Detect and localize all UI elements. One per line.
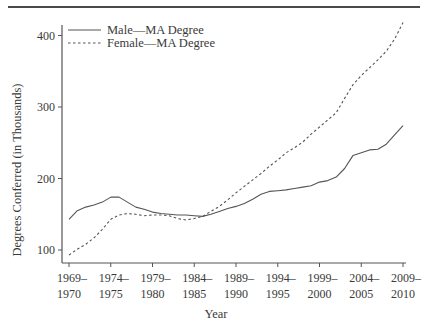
- y-tick-label: 400: [37, 29, 55, 43]
- x-tick-label: 1980: [141, 287, 165, 301]
- x-tick-label: 1999–: [308, 271, 339, 285]
- x-tick-label: 1990: [224, 287, 248, 301]
- x-tick-label: 2004–: [349, 271, 380, 285]
- line-chart: 1002003004001969–19701974–19751979–19801…: [0, 0, 429, 332]
- x-tick-label: 2009–: [391, 271, 422, 285]
- axes: 1002003004001969–19701974–19751979–19801…: [37, 25, 422, 301]
- x-tick-label: 2010: [391, 287, 415, 301]
- y-tick-label: 100: [37, 243, 55, 257]
- x-tick-label: 1975: [99, 287, 123, 301]
- x-tick-label: 1984–: [182, 271, 213, 285]
- x-tick-label: 1989–: [224, 271, 255, 285]
- legend-female-label: Female—MA Degree: [107, 36, 215, 50]
- x-tick-label: 2005: [349, 287, 373, 301]
- y-tick-label: 200: [37, 172, 55, 186]
- x-tick-label: 1979–: [141, 271, 172, 285]
- legend-male-label: Male—MA Degree: [107, 23, 204, 37]
- y-tick-label: 300: [37, 100, 55, 114]
- x-tick-label: 1985: [182, 287, 206, 301]
- x-tick-label: 1995: [266, 287, 290, 301]
- x-tick-label: 1974–: [99, 271, 130, 285]
- x-axis-title: Year: [204, 307, 228, 321]
- x-tick-label: 1994–: [266, 271, 297, 285]
- x-tick-label: 1969–: [57, 271, 88, 285]
- legend: Male—MA Degree Female—MA Degree: [68, 23, 215, 50]
- series-lines: [69, 23, 403, 255]
- male-ma-line: [69, 126, 403, 220]
- female-ma-line: [69, 23, 403, 255]
- x-tick-label: 2000: [308, 287, 332, 301]
- y-axis-title: Degrees Conferred (in Thousands): [10, 84, 24, 257]
- x-tick-label: 1970: [57, 287, 81, 301]
